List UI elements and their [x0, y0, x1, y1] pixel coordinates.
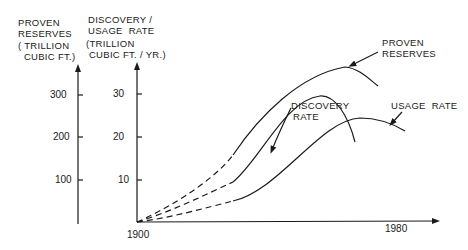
- x-axis: [137, 221, 436, 222]
- chart-canvas: [0, 0, 468, 250]
- proven-reserves-line: [233, 67, 378, 155]
- discovery-rate-dashed: [137, 182, 233, 222]
- proven-reserves-dashed: [137, 155, 233, 222]
- discovery-rate-line: [233, 96, 355, 182]
- usage-rate-line: [233, 118, 405, 201]
